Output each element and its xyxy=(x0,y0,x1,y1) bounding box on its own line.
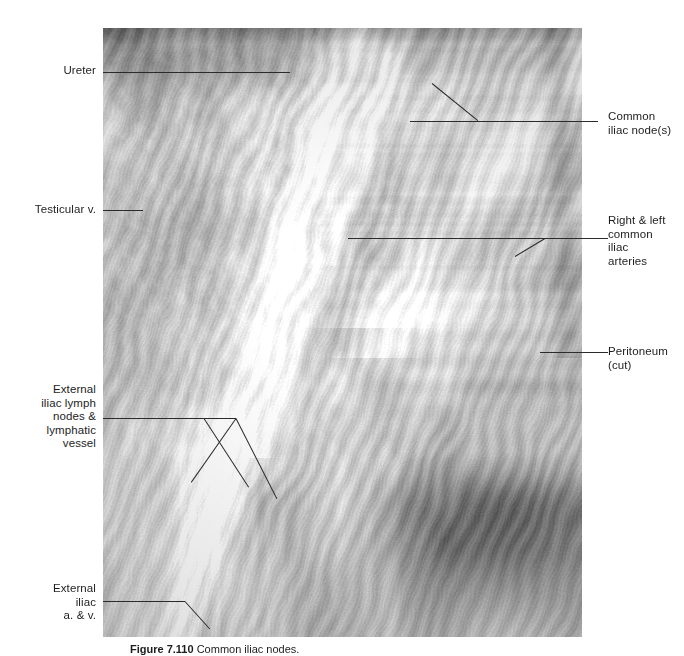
leader-line-common-iliac-nodes xyxy=(410,121,598,122)
leader-line-ureter xyxy=(103,72,290,73)
leader-line-external-iliac-a-v xyxy=(103,601,185,602)
leader-line-testicular-vein xyxy=(103,210,143,211)
figure-caption: Figure 7.110 Common iliac nodes. xyxy=(130,643,650,656)
label-testicular-vein: Testicular v. xyxy=(8,203,96,217)
figure-caption-text: Common iliac nodes. xyxy=(197,643,300,655)
label-external-iliac-a-v: External iliac a. & v. xyxy=(10,582,96,623)
label-peritoneum-cut: Peritoneum (cut) xyxy=(608,345,684,372)
figure-caption-number: Figure 7.110 xyxy=(130,643,194,655)
leader-line-peritoneum-cut xyxy=(540,352,608,353)
leader-line-external-iliac-lymph-nodes xyxy=(103,418,236,419)
dissection-photograph-canvas xyxy=(103,28,582,637)
dissection-photograph xyxy=(103,28,582,637)
leader-line-right-left-common-iliac-arteries xyxy=(348,238,608,239)
label-external-iliac-lymph-nodes: External iliac lymph nodes & lymphatic v… xyxy=(6,383,96,451)
label-common-iliac-nodes: Common iliac node(s) xyxy=(608,110,684,137)
label-ureter: Ureter xyxy=(14,64,96,78)
label-right-left-common-iliac-arteries: Right & left common iliac arteries xyxy=(608,214,684,268)
